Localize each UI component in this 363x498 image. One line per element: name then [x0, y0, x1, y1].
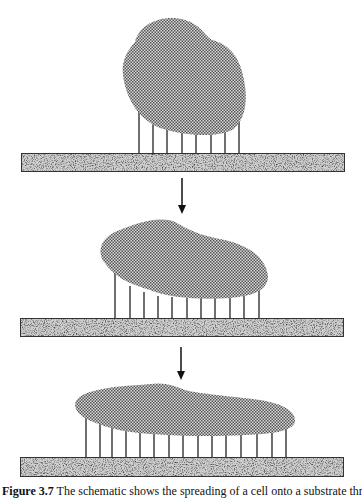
caption-text: The schematic shows the spreading of a c…: [57, 484, 362, 498]
caption-label: Figure 3.7: [2, 484, 54, 498]
substrate-texture: [21, 153, 345, 172]
cell-body: [123, 18, 246, 135]
cell-body: [101, 220, 268, 299]
stage-1: [21, 18, 345, 172]
cell-body: [75, 383, 295, 436]
figure-caption: Figure 3.7 The schematic shows the sprea…: [2, 484, 362, 498]
arrow-down-icon: [178, 178, 186, 214]
arrow-down-icon: [177, 347, 185, 380]
stage-3: [20, 383, 344, 477]
stage-2: [20, 220, 344, 337]
substrate-texture: [20, 318, 344, 337]
substrate-texture: [20, 457, 344, 477]
